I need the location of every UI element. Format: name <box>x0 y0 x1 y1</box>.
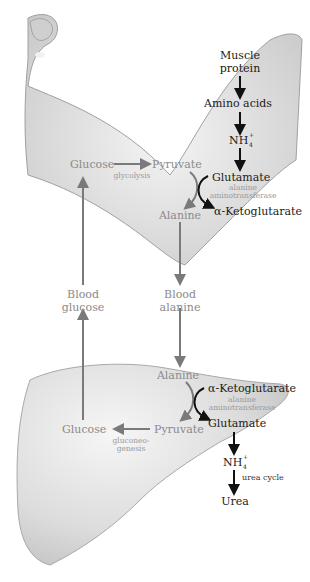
liver-enzyme-line2: aminotransferase <box>209 404 276 412</box>
blood-glucose-line1: Blood <box>62 288 105 301</box>
blood-alanine-label: Blood alanine <box>160 288 201 314</box>
muscle-enzyme-label: alanine aminotransferase <box>210 184 277 201</box>
nh4-superscript: + <box>249 131 254 138</box>
muscle-glutamate-label: Glutamate <box>212 172 270 183</box>
muscle-pyruvate-label: Pyruvate <box>152 159 202 170</box>
liver-enzyme-label: alanine aminotransferase <box>209 396 276 413</box>
muscle-protein-line1: Muscle <box>220 50 260 63</box>
liver-alpha-ketoglutarate-label: α-Ketoglutarate <box>208 383 296 394</box>
liver-nh4-text: NH <box>223 456 242 469</box>
liver-glucose-label: Glucose <box>62 424 106 435</box>
liver-alanine-label: Alanine <box>157 370 199 381</box>
liver-nh4-superscript: + <box>243 453 248 460</box>
nh4-subscript: 4 <box>249 141 253 148</box>
muscle-protein-label: Muscle protein <box>220 50 260 75</box>
urea-label: Urea <box>221 496 249 507</box>
blood-alanine-line2: alanine <box>160 301 201 314</box>
blood-alanine-line1: Blood <box>160 288 201 301</box>
liver-glutamate-label: Glutamate <box>208 418 266 429</box>
nh4-text: NH <box>229 134 248 147</box>
liver-pyruvate-label: Pyruvate <box>154 424 204 435</box>
liver-nh4-label: NH + 4 <box>223 456 242 469</box>
liver-nh4-subscript: 4 <box>243 463 247 470</box>
muscle-alanine-label: Alanine <box>159 210 201 221</box>
arm-illustration <box>25 15 302 265</box>
gluconeogenesis-line2: genesis <box>112 445 149 453</box>
amino-acids-label: Amino acids <box>204 98 272 109</box>
muscle-protein-line2: protein <box>220 63 260 76</box>
enzyme-line2: aminotransferase <box>210 192 277 200</box>
blood-glucose-line2: glucose <box>62 301 105 314</box>
gluconeogenesis-label: gluconeo- genesis <box>112 437 149 454</box>
blood-glucose-label: Blood glucose <box>62 288 105 314</box>
diagram-canvas <box>0 0 310 582</box>
muscle-nh4-label: NH + 4 <box>229 134 248 147</box>
muscle-alpha-ketoglutarate-label: α-Ketoglutarate <box>214 206 302 217</box>
urea-cycle-label: urea cycle <box>242 474 284 482</box>
glycolysis-label: glycolysis <box>114 172 151 180</box>
muscle-glucose-label: Glucose <box>70 159 114 170</box>
